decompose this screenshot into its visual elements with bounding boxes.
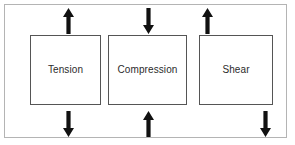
stress-types-diagram: Tension Compression Shear [0, 0, 295, 145]
shear-top-arrow [201, 8, 214, 34]
tension-box: Tension [30, 35, 101, 105]
tension-top-arrow [62, 8, 75, 34]
shear-bottom-arrow [259, 111, 272, 137]
tension-bottom-arrow [62, 111, 75, 137]
compression-bottom-arrow [142, 111, 155, 137]
compression-box: Compression [108, 35, 187, 105]
shear-box: Shear [199, 35, 273, 105]
compression-label: Compression [117, 65, 177, 75]
compression-top-arrow [142, 8, 155, 34]
shear-label: Shear [222, 65, 249, 75]
tension-label: Tension [48, 65, 83, 75]
